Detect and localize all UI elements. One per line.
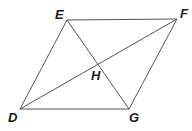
label-f: F <box>180 6 189 21</box>
diagonal-EG <box>67 20 129 109</box>
parallelogram-diagram: D E F G H <box>0 0 192 131</box>
label-h: H <box>91 68 101 83</box>
segment-EF <box>67 19 177 20</box>
label-e: E <box>55 7 64 22</box>
label-d: D <box>8 110 18 125</box>
label-g: G <box>129 110 139 125</box>
